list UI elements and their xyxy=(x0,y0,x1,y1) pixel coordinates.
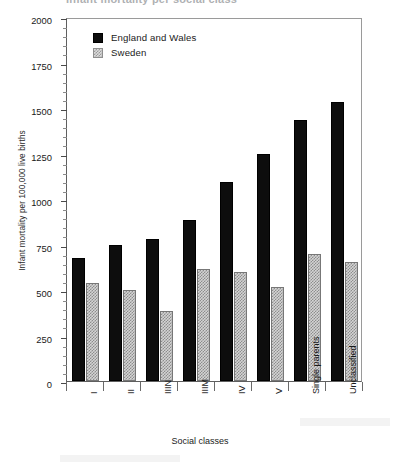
bar-england-and-wales xyxy=(183,220,196,381)
y-tick-label: 1500 xyxy=(31,106,52,117)
bar-england-and-wales xyxy=(294,120,307,381)
bar-sweden xyxy=(197,269,210,381)
bar-sweden xyxy=(123,290,136,381)
bar-england-and-wales xyxy=(109,245,122,381)
bar-sweden xyxy=(234,272,247,381)
plot-area: 025050075010001250150017502000 xyxy=(66,18,362,382)
x-tick xyxy=(66,382,67,391)
y-tick-label: 750 xyxy=(36,242,52,253)
bar-england-and-wales xyxy=(220,182,233,381)
x-tick xyxy=(251,382,252,391)
bar-england-and-wales xyxy=(72,258,85,381)
x-axis-label: Social classes xyxy=(140,436,260,446)
bar-sweden xyxy=(271,287,284,381)
y-tick-label: 0 xyxy=(47,379,52,390)
x-category-label: IV xyxy=(237,385,247,394)
y-tick-label: 500 xyxy=(36,288,52,299)
x-tick xyxy=(325,382,326,391)
x-category-label: Single parents xyxy=(311,336,321,394)
x-category-label: IIIN xyxy=(163,380,173,394)
x-tick xyxy=(214,382,215,391)
y-tick-label: 1250 xyxy=(31,151,52,162)
bar-sweden xyxy=(160,311,173,381)
x-tick xyxy=(362,382,363,391)
legend-item-sweden: Sweden xyxy=(93,45,196,60)
x-category-label: IIIM xyxy=(200,379,210,394)
x-tick xyxy=(288,382,289,391)
legend-label: England and Wales xyxy=(111,32,196,43)
infant-mortality-bar-chart: Infant mortality per social class Infant… xyxy=(0,0,395,466)
legend-item-england-and-wales: England and Wales xyxy=(93,30,196,45)
bar-sweden xyxy=(86,283,99,381)
solid-black-square-icon xyxy=(93,33,103,43)
y-tick-label: 250 xyxy=(36,333,52,344)
x-category-label: II xyxy=(126,389,136,394)
bars-layer xyxy=(67,19,361,381)
y-axis-label: Infant mortality per 100,000 live births xyxy=(18,106,27,296)
x-category-label: V xyxy=(274,388,284,394)
y-tick-label: 1000 xyxy=(31,197,52,208)
x-tick xyxy=(103,382,104,391)
x-tick xyxy=(177,382,178,391)
checkered-gray-square-icon xyxy=(93,48,103,58)
bar-england-and-wales xyxy=(257,154,270,382)
legend: England and Wales Sweden xyxy=(93,30,196,60)
chart-title-clipped: Infant mortality per social class xyxy=(66,0,336,7)
x-category-label: I xyxy=(89,391,99,394)
x-category-label: Unclassified xyxy=(348,345,358,394)
legend-label: Sweden xyxy=(111,47,147,58)
x-tick xyxy=(140,382,141,391)
bar-england-and-wales xyxy=(331,102,344,381)
y-tick-label: 2000 xyxy=(31,15,52,26)
bar-england-and-wales xyxy=(146,239,159,381)
y-tick-label: 1750 xyxy=(31,60,52,71)
